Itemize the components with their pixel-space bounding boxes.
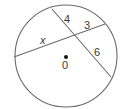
diagram-canvas: 0 4 3 x 6 xyxy=(0,0,122,109)
chord-4-6 xyxy=(52,9,111,77)
segment-label-6: 6 xyxy=(94,46,100,58)
segment-label-3: 3 xyxy=(84,19,90,31)
segment-label-x: x xyxy=(39,34,46,46)
center-label: 0 xyxy=(62,59,68,71)
segment-label-4: 4 xyxy=(64,13,70,25)
chord-x-3 xyxy=(14,24,105,57)
circle-chords-diagram: 0 4 3 x 6 xyxy=(0,0,122,109)
